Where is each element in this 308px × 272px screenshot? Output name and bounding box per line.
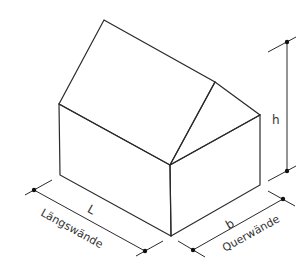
diagram-svg: L Längswände b Querwände h: [0, 0, 308, 272]
long-wall-face: [59, 104, 171, 236]
gable-end: [170, 82, 260, 165]
label-width: b: [223, 216, 236, 232]
cross-wall-face: [170, 115, 260, 236]
house: [59, 20, 260, 236]
dimension-height: [268, 37, 296, 181]
label-long-walls: Längswände: [39, 206, 106, 251]
roof-slope: [59, 20, 215, 165]
house-dimension-diagram: L Längswände b Querwände h: [0, 0, 308, 272]
label-length: L: [85, 202, 98, 218]
label-height: h: [272, 113, 280, 127]
